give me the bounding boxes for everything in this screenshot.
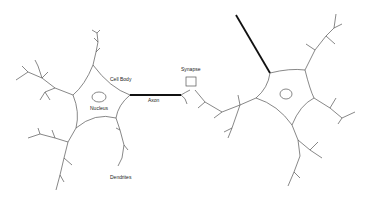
label-cell-body: Cell Body (110, 76, 131, 82)
neuron-diagram (0, 0, 371, 201)
left-cell-body (73, 65, 130, 128)
left-nucleus (92, 92, 106, 102)
label-nucleus: Nucleus (90, 105, 108, 111)
right-neuron (195, 14, 355, 186)
right-axon (236, 15, 270, 73)
right-cell-body (256, 69, 314, 125)
synapse-box (186, 77, 196, 86)
label-axon: Axon (148, 97, 159, 103)
right-nucleus (280, 89, 292, 99)
label-synapse: Synapse (181, 66, 200, 72)
label-dendrites: Dendrites (110, 174, 131, 180)
